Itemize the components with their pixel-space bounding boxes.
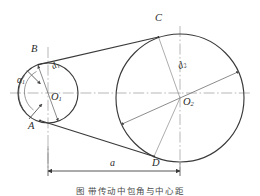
alpha1-arrow-lower bbox=[29, 104, 42, 119]
point-A-marker bbox=[39, 120, 41, 122]
radius-o2-to-D bbox=[154, 98, 180, 157]
center-distance-label-a: a bbox=[110, 158, 115, 168]
belt-lower-tangent bbox=[40, 121, 154, 157]
point-label-D: D bbox=[152, 158, 160, 169]
belt-drive-diagram bbox=[0, 0, 260, 196]
figure-caption: 图 带传动中包角与中心距 bbox=[0, 184, 260, 196]
center-axes bbox=[10, 26, 251, 176]
center-label-O1-letter: O bbox=[51, 91, 59, 102]
point-label-C: C bbox=[155, 13, 162, 24]
alpha1-inner-arc bbox=[24, 72, 36, 111]
center-label-O1-subscript: 1 bbox=[59, 95, 62, 102]
alpha1-subscript: 1 bbox=[22, 79, 25, 85]
center-label-O1: O1 bbox=[51, 92, 62, 103]
wrap-angle-label-alpha1: α1 bbox=[17, 76, 25, 86]
point-label-A: A bbox=[28, 121, 34, 132]
center-label-O2-letter: O bbox=[183, 96, 191, 107]
point-C-marker bbox=[158, 36, 160, 38]
radius-o2-to-C bbox=[159, 37, 181, 98]
point-label-B: B bbox=[31, 44, 37, 55]
point-B-marker bbox=[38, 64, 40, 66]
center-label-O2-subscript: 2 bbox=[191, 100, 194, 107]
center-label-O2: O2 bbox=[183, 97, 194, 108]
